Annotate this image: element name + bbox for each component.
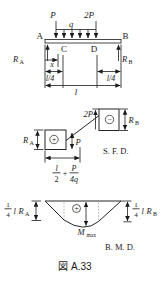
- distributed-load-q: [56, 30, 96, 39]
- svg-text:−: −: [107, 115, 111, 124]
- svg-text:R: R: [22, 135, 29, 145]
- bmd-right-moment-label: 1 4 l R B: [133, 201, 158, 219]
- bmd-right-dim: [121, 201, 132, 222]
- svg-text:l: l: [142, 206, 145, 216]
- svg-text:R: R: [18, 206, 25, 216]
- node-a-label: A: [37, 31, 44, 41]
- dim-quarter-right-label: l/4: [107, 74, 115, 83]
- distributed-load-q-label: q: [69, 19, 74, 29]
- reaction-rb-label: R B: [121, 54, 133, 65]
- svg-text:B: B: [153, 211, 157, 217]
- svg-text:P: P: [71, 164, 77, 173]
- beam-analysis-figure: P 2P q A B C D R A R B: [0, 0, 165, 285]
- svg-text:+: +: [52, 135, 56, 144]
- sfd-negative-sign: −: [105, 115, 113, 124]
- svg-text:4q: 4q: [70, 175, 78, 184]
- node-b-label: B: [123, 31, 129, 41]
- svg-text:+: +: [63, 169, 68, 178]
- bmd-positive-sign: +: [73, 204, 81, 213]
- svg-text:1: 1: [134, 201, 138, 209]
- svg-text:max: max: [87, 232, 97, 238]
- bmd-curve: [45, 201, 121, 227]
- figure-caption: 図 A.33: [58, 261, 92, 272]
- bmd-left-dim: [32, 201, 42, 221]
- svg-text:4: 4: [6, 211, 10, 219]
- svg-text:M: M: [77, 227, 86, 237]
- svg-text:1: 1: [6, 201, 10, 209]
- svg-text:2: 2: [55, 175, 59, 184]
- svg-text:A: A: [30, 140, 35, 146]
- svg-text:l: l: [14, 206, 17, 216]
- bmd-mmax-label: M max: [77, 227, 97, 238]
- sfd-ra-dim: [34, 130, 44, 150]
- sfd-rb-dim: [120, 109, 129, 131]
- load-p-label: P: [49, 10, 56, 20]
- dim-x-label: x: [49, 60, 54, 69]
- sfd-zero-cross-label: l 2 + P 4q: [53, 164, 79, 184]
- svg-text:B: B: [135, 120, 139, 126]
- bending-moment-diagram: + M max 1 4 l R A: [5, 201, 158, 252]
- svg-text:R: R: [146, 206, 153, 216]
- sfd-slope-line: [66, 116, 99, 141]
- sfd-rb-label: R B: [128, 115, 140, 126]
- reaction-ra-label: R A: [12, 54, 25, 65]
- svg-text:4: 4: [134, 211, 138, 219]
- shear-force-diagram: + − R A P 2P: [22, 109, 139, 184]
- node-c-label: C: [61, 44, 67, 54]
- beam-member: [45, 40, 121, 44]
- sfd-title: S. F. D.: [103, 146, 129, 156]
- figure-a33: P 2P q A B C D R A R B: [0, 0, 165, 285]
- svg-text:+: +: [74, 204, 78, 213]
- sfd-step-2p-label: 2P: [84, 109, 93, 119]
- svg-text:R: R: [128, 115, 135, 125]
- svg-text:B: B: [129, 59, 133, 65]
- svg-text:R: R: [12, 54, 19, 64]
- load-2p-label: 2P: [84, 10, 95, 20]
- sfd-ra-label: R A: [22, 135, 35, 146]
- dim-quarter-left-label: l/4: [46, 74, 54, 83]
- svg-text:R: R: [121, 54, 128, 64]
- svg-text:A: A: [25, 211, 30, 217]
- dim-total-label: l: [75, 87, 78, 97]
- node-d-label: D: [91, 44, 98, 54]
- svg-text:l: l: [55, 164, 58, 173]
- bmd-left-moment-label: 1 4 l R A: [5, 201, 31, 219]
- svg-text:A: A: [20, 59, 25, 65]
- bmd-title: B. M. D.: [105, 242, 135, 252]
- load-diagram: P 2P q A B C D R A R B: [12, 10, 133, 97]
- sfd-positive-sign: +: [50, 135, 58, 144]
- sfd-step-p-label: P: [75, 137, 81, 147]
